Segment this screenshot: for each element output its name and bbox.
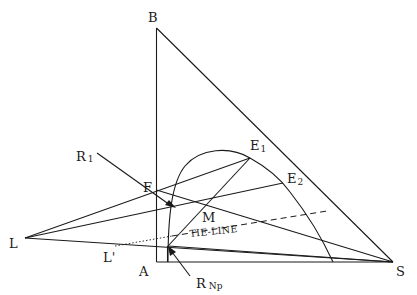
label-F: F xyxy=(143,180,152,195)
label-L-prime: L' xyxy=(103,250,115,265)
label-S: S xyxy=(396,264,405,279)
line-F-S xyxy=(157,190,394,262)
label-tie-line: TIE-LINE xyxy=(189,223,238,239)
label-RNp: RNp xyxy=(196,276,223,291)
line-L-E2 xyxy=(25,183,283,238)
label-R1: R1 xyxy=(76,149,94,164)
R1-pointer xyxy=(97,153,170,205)
binodal-curve xyxy=(168,150,333,262)
ternary-diagram: B A S L L' F M E1 E2 R1 RNp TIE-LINE xyxy=(0,0,417,295)
label-M: M xyxy=(202,210,215,225)
RNp-pointer xyxy=(172,252,190,276)
label-A: A xyxy=(138,264,149,279)
label-E1: E1 xyxy=(250,138,266,154)
line-RNp-S xyxy=(168,246,393,262)
label-L: L xyxy=(9,236,18,251)
label-B: B xyxy=(148,10,158,25)
label-E2: E2 xyxy=(287,171,303,187)
